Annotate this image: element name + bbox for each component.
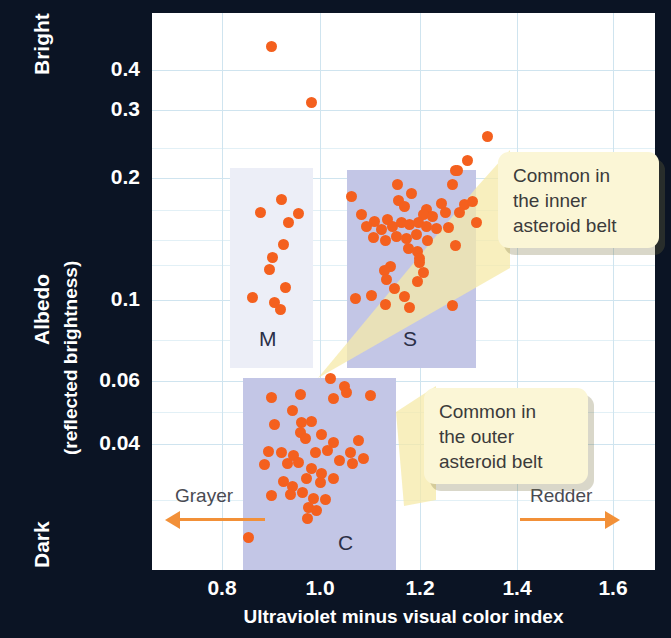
data-point	[381, 274, 392, 285]
callout-line: Common in	[439, 399, 574, 424]
data-point	[320, 494, 331, 505]
y-tick-0.1: 0.1	[28, 287, 140, 311]
data-point	[334, 455, 345, 466]
data-point	[264, 264, 275, 275]
y-tick-0.2: 0.2	[28, 165, 140, 189]
data-point	[347, 458, 358, 469]
data-point	[421, 221, 432, 232]
x-tick-1.0: 1.0	[290, 576, 350, 600]
data-point	[293, 208, 304, 219]
data-point	[306, 463, 317, 474]
x-tick-1.6: 1.6	[583, 576, 643, 600]
data-point	[266, 392, 277, 403]
data-point	[358, 453, 369, 464]
data-point	[401, 233, 412, 244]
data-point	[353, 435, 364, 446]
data-point	[404, 302, 415, 313]
data-point	[300, 433, 311, 444]
x-tick-0.8: 0.8	[192, 576, 252, 600]
data-point	[450, 240, 461, 251]
callout-line: asteroid belt	[439, 449, 574, 474]
data-point	[267, 252, 278, 263]
data-point	[412, 276, 423, 287]
data-point	[283, 217, 294, 228]
data-point	[301, 473, 312, 484]
data-point	[345, 447, 356, 458]
data-point	[278, 239, 289, 250]
data-point	[467, 196, 478, 207]
data-point	[266, 490, 277, 501]
arrow-line-grayer	[180, 518, 265, 521]
data-point	[440, 207, 451, 218]
data-point	[328, 393, 339, 404]
data-point	[380, 299, 391, 310]
data-point	[427, 211, 438, 222]
data-point	[365, 390, 376, 401]
data-point	[447, 179, 458, 190]
data-point	[316, 429, 327, 440]
data-point	[282, 458, 293, 469]
data-point	[302, 513, 313, 524]
data-point	[269, 419, 280, 430]
callout-outer-belt: Common inthe outerasteroid belt	[424, 388, 588, 484]
data-point	[263, 446, 274, 457]
data-point	[306, 97, 317, 108]
data-point	[285, 489, 296, 500]
data-point	[462, 155, 473, 166]
x-axis-title: Ultraviolet minus visual color index	[152, 606, 655, 628]
y-tick-0.04: 0.04	[28, 431, 140, 455]
data-point	[450, 165, 461, 176]
data-point	[431, 223, 442, 234]
data-point	[276, 447, 287, 458]
callout-inner-belt: Common inthe innerasteroid belt	[498, 152, 659, 248]
data-point	[482, 131, 493, 142]
y-tick-0.3: 0.3	[28, 97, 140, 121]
data-point	[389, 283, 400, 294]
data-point	[255, 207, 266, 218]
callout-line: the inner	[513, 188, 645, 213]
data-point	[422, 235, 433, 246]
data-point	[315, 477, 326, 488]
x-tick-1.4: 1.4	[487, 576, 547, 600]
data-point	[471, 217, 482, 228]
data-point	[368, 232, 379, 243]
data-point	[275, 304, 286, 315]
data-point	[391, 231, 402, 242]
band-label-c: C	[338, 531, 353, 555]
data-point	[328, 473, 339, 484]
data-point	[392, 179, 403, 190]
callout-line: Common in	[513, 163, 645, 188]
data-point	[341, 387, 352, 398]
y-tick-0.06: 0.06	[28, 368, 140, 392]
band-label-m: M	[259, 327, 277, 351]
data-point	[306, 416, 317, 427]
data-point	[356, 209, 367, 220]
data-point	[325, 373, 336, 384]
band-label-s: S	[403, 327, 417, 351]
data-point	[280, 282, 291, 293]
y-tick-0.4: 0.4	[28, 57, 140, 81]
data-point	[297, 487, 308, 498]
data-point	[399, 291, 410, 302]
data-point	[296, 417, 307, 428]
data-point	[443, 222, 454, 233]
data-point	[276, 194, 287, 205]
data-point	[346, 191, 357, 202]
data-point	[295, 389, 306, 400]
data-point	[411, 229, 422, 240]
x-tick-1.2: 1.2	[390, 576, 450, 600]
data-point	[266, 41, 277, 52]
arrow-head-redder	[605, 511, 620, 529]
y-axis-dark-label: Dark	[30, 521, 54, 568]
data-point	[310, 447, 321, 458]
data-point	[293, 457, 304, 468]
annotation-grayer: Grayer	[175, 485, 233, 507]
data-point	[350, 293, 361, 304]
data-point	[414, 257, 425, 268]
data-point	[259, 459, 270, 470]
data-point	[311, 505, 322, 516]
callout-line: the outer	[439, 424, 574, 449]
data-point	[454, 207, 465, 218]
data-point	[406, 188, 417, 199]
data-point	[361, 221, 372, 232]
